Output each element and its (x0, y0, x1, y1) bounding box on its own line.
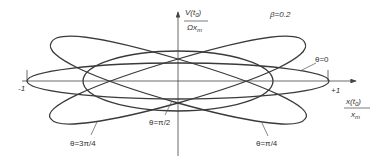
y-axis-label-numerator: V(t0) (185, 8, 202, 18)
phase-plane-diagram: V(t0) Ωxm β=0.2 -1 +1 x(t0) xm θ=0 θ=π/2… (0, 0, 386, 164)
label-theta-pi-4: θ=π/4 (256, 139, 278, 148)
leader-theta-3pi-4 (91, 122, 97, 135)
label-theta-3pi-4: θ=3π/4 (70, 139, 96, 148)
leader-theta-pi-4 (262, 123, 268, 136)
x-axis-label-denominator: xm (350, 110, 360, 120)
label-theta-0: θ=0 (315, 55, 329, 64)
leader-theta-pi-2 (165, 101, 172, 115)
label-theta-pi-2: θ=π/2 (149, 118, 171, 127)
y-axis-label-denominator: Ωxm (187, 23, 202, 33)
tick-label-minus-one: -1 (18, 84, 25, 93)
beta-parameter-label: β=0.2 (269, 10, 291, 19)
leader-theta-0 (300, 63, 316, 71)
x-axis-label-numerator: x(t0) (345, 97, 361, 107)
tick-label-plus-one: +1 (331, 86, 340, 95)
